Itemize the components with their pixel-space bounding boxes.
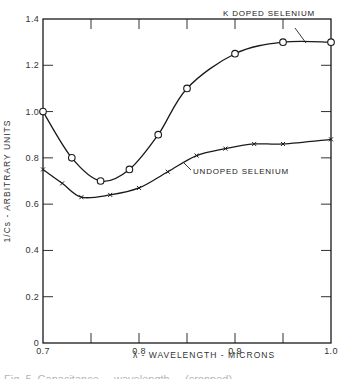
annotation-k-doped: K DOPED SELENIUM: [223, 9, 315, 18]
annotation-undoped: UNDOPED SELENIUM: [193, 167, 289, 176]
circle-marker: [184, 85, 191, 92]
y-tick-label: 1.0: [26, 107, 39, 117]
y-tick-label: 1.2: [26, 60, 39, 70]
x-axis-ticks: 0.70.80.91.0: [36, 19, 337, 356]
circle-marker: [155, 131, 162, 138]
x-tick-label: 1.0: [324, 346, 337, 356]
chart: 0.70.80.91.0 00.20.40.60.81.01.21.4 λ - …: [0, 0, 348, 379]
circle-marker: [126, 166, 133, 173]
plot-frame: [43, 19, 331, 343]
y-tick-label: 0.8: [26, 153, 39, 163]
circle-marker: [69, 155, 76, 162]
circle-marker: [328, 39, 335, 46]
plot-border: [43, 19, 331, 343]
x-axis-title: λ - WAVELENGTH - MICRONS: [133, 350, 275, 360]
y-tick-label: 0.4: [26, 245, 39, 255]
circle-marker: [40, 108, 47, 115]
y-tick-label: 0: [34, 338, 39, 348]
circle-marker: [97, 178, 104, 185]
series-layer: [40, 39, 335, 199]
annotation-arrow-undoped: [183, 162, 191, 170]
figure-caption: Fig. 5. Capacitance ... wavelength ... (…: [4, 371, 348, 379]
x-marker: [166, 170, 170, 174]
y-tick-label: 1.4: [26, 14, 39, 24]
x-marker: [60, 181, 64, 185]
y-tick-label: 0.6: [26, 199, 39, 209]
y-tick-label: 0.2: [26, 292, 39, 302]
y-axis-ticks: 00.20.40.60.81.01.21.4: [26, 14, 331, 348]
circle-marker: [280, 39, 287, 46]
circle-marker: [232, 50, 239, 57]
y-axis-title: 1/Cs - ARBITRARY UNITS: [2, 120, 12, 243]
